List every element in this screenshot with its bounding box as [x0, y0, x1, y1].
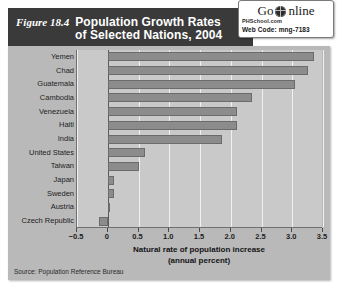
y-axis-labels: YemenChadGuatemalaCambodiaVenezuelaHaiti… — [10, 50, 74, 228]
web-code-text: Web Code: mng-7183 — [242, 26, 310, 33]
x-axis-tick-label: −0.5 — [69, 232, 84, 241]
x-axis-title-line1: Natural rate of population increase — [76, 244, 322, 255]
x-axis-tick-label: 3.5 — [317, 232, 327, 241]
bar-chad — [108, 66, 308, 75]
x-axis-tick-label: 0.5 — [132, 232, 142, 241]
y-axis-label-haiti: Haiti — [14, 120, 74, 129]
y-axis-label-taiwan: Taiwan — [14, 161, 74, 170]
go-online-go-text: Go — [258, 4, 274, 17]
figure-number: Figure 18.4 — [16, 16, 69, 28]
x-axis-tick-label: 1.5 — [194, 232, 204, 241]
bar-venezuela — [108, 107, 237, 116]
go-online-wordmark: Go nline — [239, 1, 333, 19]
go-online-badge[interactable]: Go nline PHSchool.com Web Code: mng-7183 — [238, 0, 334, 38]
y-axis-label-czech-republic: Czech Republic — [14, 216, 74, 225]
x-axis-tick-label: 2.5 — [255, 232, 265, 241]
go-online-online-text: nline — [288, 4, 314, 17]
y-axis-label-united-states: United States — [14, 148, 74, 157]
y-axis-label-guatemala: Guatemala — [14, 79, 74, 88]
phschool-site-text: PHSchool.com — [242, 18, 282, 24]
bar-india — [108, 135, 222, 144]
gridline — [77, 50, 78, 227]
figure-panel: Go nline PHSchool.com Web Code: mng-7183… — [0, 0, 338, 286]
x-axis-tick-label: 1.0 — [163, 232, 173, 241]
gridline — [231, 50, 232, 227]
gridline — [323, 50, 324, 227]
y-axis-label-japan: Japan — [14, 175, 74, 184]
bar-taiwan — [108, 162, 139, 171]
figure-title-line1: Population Growth Rates — [75, 15, 221, 29]
y-axis-label-sweden: Sweden — [14, 189, 74, 198]
x-axis-tick-label: 2.0 — [225, 232, 235, 241]
bar-haiti — [108, 121, 237, 130]
y-axis-label-chad: Chad — [14, 66, 74, 75]
globe-icon — [275, 6, 286, 17]
x-axis-tick-label: 0 — [105, 232, 109, 241]
y-axis-label-india: India — [14, 134, 74, 143]
gridline — [292, 50, 293, 227]
gridline — [262, 50, 263, 227]
plot-area — [76, 50, 322, 228]
chart-panel: YemenChadGuatemalaCambodiaVenezuelaHaiti… — [8, 46, 330, 280]
y-axis-label-austria: Austria — [14, 202, 74, 211]
x-axis-title-line2: (annual percent) — [76, 255, 322, 266]
bar-japan — [108, 176, 114, 185]
bar-guatemala — [108, 80, 296, 89]
bar-cambodia — [108, 93, 253, 102]
bar-austria — [108, 203, 110, 212]
plot-inner — [77, 50, 322, 227]
y-axis-label-yemen: Yemen — [14, 52, 74, 61]
bar-sweden — [108, 189, 114, 198]
figure-title-bar: Figure 18.4Population Growth Rates of Se… — [8, 8, 253, 46]
y-axis-label-cambodia: Cambodia — [14, 93, 74, 102]
x-axis: −0.500.51.01.52.02.53.03.5 — [76, 228, 322, 242]
figure-title-line2: of Selected Nations, 2004 — [75, 28, 222, 42]
bar-czech-republic — [99, 217, 108, 226]
bar-united-states — [108, 148, 145, 157]
x-axis-title: Natural rate of population increase (ann… — [76, 244, 322, 266]
source-note: Source: Population Reference Bureau — [14, 268, 124, 275]
bar-yemen — [108, 52, 314, 61]
y-axis-label-venezuela: Venezuela — [14, 107, 74, 116]
x-axis-tick-label: 3.0 — [286, 232, 296, 241]
